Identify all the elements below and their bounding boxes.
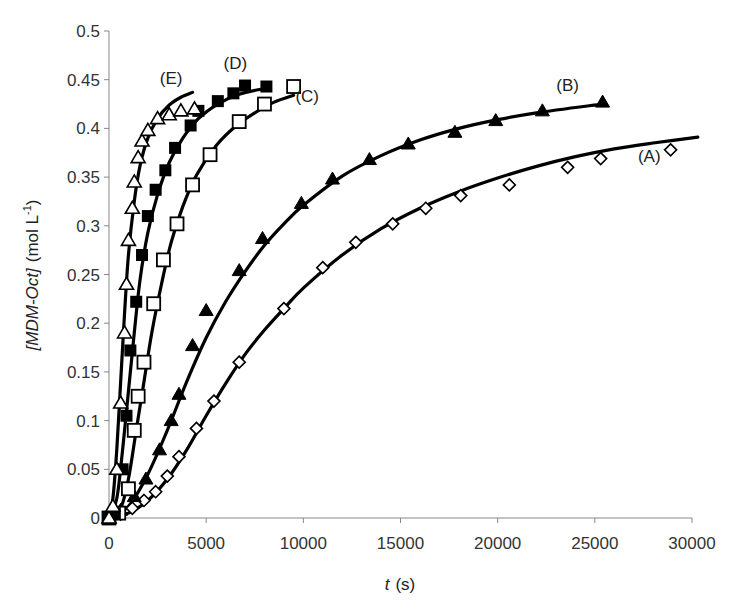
x-tick-label: 30000: [668, 534, 715, 553]
open-square-marker: [171, 217, 184, 230]
y-tick-label: 0.2: [76, 314, 100, 333]
fit-curves: [109, 88, 698, 518]
y-tick-label: 0.3: [76, 217, 100, 236]
filled-square-marker: [120, 410, 132, 422]
x-axis-title: t(s): [385, 575, 416, 594]
x-tick-label: 10000: [280, 534, 327, 553]
y-tick-label: 0.1: [76, 412, 100, 431]
y-axis-title: [MDM-Oct](mol L-1): [21, 200, 42, 352]
open-square-marker: [258, 98, 271, 111]
series-d-markers: [103, 80, 272, 524]
diamond-marker: [562, 161, 574, 173]
y-tick-label: 0.5: [76, 22, 100, 41]
series-label-c: (C): [295, 87, 319, 106]
filled-triangle-marker: [186, 339, 200, 351]
y-tick-label: 0.05: [67, 460, 100, 479]
filled-square-marker: [185, 119, 197, 131]
x-tick-label: 25000: [571, 534, 618, 553]
open-square-marker: [157, 253, 170, 266]
filled-square-marker: [227, 87, 239, 99]
diamond-marker: [595, 153, 607, 165]
diamond-marker: [173, 451, 185, 463]
filled-square-marker: [169, 142, 181, 154]
filled-square-marker: [130, 296, 142, 308]
filled-triangle-marker: [256, 231, 270, 243]
filled-square-marker: [150, 184, 162, 196]
series-labels: (A)(B)(C)(D)(E): [160, 54, 661, 167]
x-tick-label: 0: [104, 534, 113, 553]
series-a-markers: [103, 144, 677, 524]
filled-triangle-marker: [139, 472, 153, 484]
filled-triangle-marker: [596, 95, 610, 107]
filled-square-marker: [159, 164, 171, 176]
y-tick-label: 0: [91, 509, 100, 528]
fit-curve-a: [109, 137, 698, 518]
open-square-marker: [122, 482, 135, 495]
y-tick-label: 0.4: [76, 119, 100, 138]
diamond-marker: [665, 144, 677, 156]
chart: 00.050.10.150.20.250.30.350.40.450.50500…: [0, 0, 735, 611]
open-square-marker: [186, 178, 199, 191]
filled-triangle-marker: [232, 264, 246, 276]
open-square-marker: [233, 115, 246, 128]
diamond-marker: [317, 262, 329, 274]
filled-square-marker: [212, 95, 224, 107]
series-label-b: (B): [556, 76, 579, 95]
filled-square-marker: [136, 249, 148, 261]
open-square-marker: [137, 356, 150, 369]
y-tick-label: 0.35: [67, 168, 100, 187]
open-triangle-marker: [114, 396, 128, 408]
open-triangle-marker: [119, 277, 133, 289]
filled-square-marker: [239, 80, 251, 92]
filled-square-marker: [260, 81, 272, 93]
x-tick-label: 20000: [474, 534, 521, 553]
x-tick-label: 15000: [377, 534, 424, 553]
series-label-a: (A): [638, 147, 661, 166]
x-tick-label: 5000: [187, 534, 225, 553]
open-square-marker: [147, 297, 160, 310]
open-triangle-marker: [174, 104, 188, 116]
diamond-marker: [503, 179, 515, 191]
filled-triangle-marker: [164, 414, 178, 426]
y-tick-label: 0.45: [67, 71, 100, 90]
series-label-d: (D): [224, 54, 248, 73]
data-markers: [102, 80, 677, 525]
filled-triangle-marker: [199, 304, 213, 316]
open-square-marker: [128, 424, 141, 437]
y-tick-label: 0.25: [67, 266, 100, 285]
filled-square-marker: [124, 344, 136, 356]
filled-triangle-marker: [153, 443, 167, 455]
open-triangle-marker: [121, 233, 135, 245]
open-square-marker: [132, 390, 145, 403]
open-triangle-marker: [118, 326, 132, 338]
open-square-marker: [204, 148, 217, 161]
series-label-e: (E): [160, 69, 183, 88]
open-triangle-marker: [125, 201, 139, 213]
filled-square-marker: [142, 210, 154, 222]
y-tick-label: 0.15: [67, 363, 100, 382]
